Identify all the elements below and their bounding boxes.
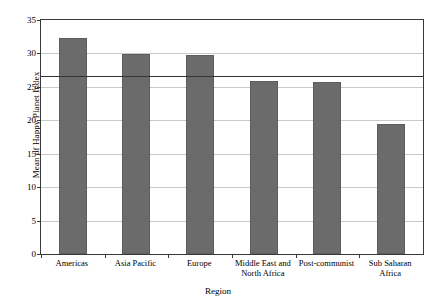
gridline: [41, 221, 423, 222]
bar: [186, 55, 214, 254]
y-axis-tick: [37, 221, 41, 222]
y-axis-tick-label: 35: [27, 15, 36, 25]
y-axis-tick: [37, 187, 41, 188]
bar: [122, 54, 150, 254]
bar: [250, 81, 278, 254]
gridline: [41, 87, 423, 88]
x-axis-tick-label: Sub Saharan Africa: [358, 258, 422, 278]
x-axis-tick-label: Middle East and North Africa: [231, 258, 295, 278]
y-axis-tick-label: 15: [27, 149, 36, 159]
bar-chart: Mean of Happy Planet Index 0510152025303…: [0, 0, 436, 304]
y-axis-tick: [37, 154, 41, 155]
x-axis-tick-label: Asia Pacific: [104, 258, 168, 268]
y-axis-tick-label: 0: [32, 249, 37, 259]
x-axis-title: Region: [0, 286, 436, 296]
bar: [377, 124, 405, 254]
y-axis-tick-label: 20: [27, 115, 36, 125]
bar: [313, 82, 341, 254]
x-axis-tick-label: Europe: [167, 258, 231, 268]
gridline: [41, 154, 423, 155]
y-axis-tick-label: 25: [27, 82, 36, 92]
y-axis-tick: [37, 120, 41, 121]
y-axis-tick: [37, 53, 41, 54]
y-axis-tick-label: 30: [27, 48, 36, 58]
x-axis-tick-label: Americas: [40, 258, 104, 268]
reference-line: [41, 76, 423, 77]
gridline: [41, 53, 423, 54]
plot-area: 05101520253035: [40, 19, 424, 255]
bar: [59, 38, 87, 254]
y-axis-tick: [37, 20, 41, 21]
x-axis-tick-label: Post-communist: [295, 258, 359, 268]
y-axis-tick: [37, 87, 41, 88]
gridline: [41, 120, 423, 121]
gridline: [41, 187, 423, 188]
y-axis-tick-label: 10: [27, 182, 36, 192]
y-axis-tick-label: 5: [32, 216, 37, 226]
